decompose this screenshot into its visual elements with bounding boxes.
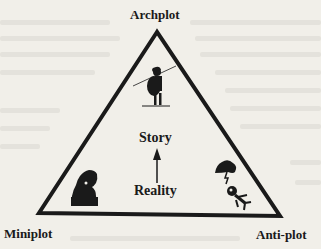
arrow-up-icon <box>153 148 161 183</box>
miniplot-label: Miniplot <box>4 227 52 240</box>
warrior-icon <box>133 66 176 106</box>
reality-label: Reality <box>134 184 177 198</box>
thinker-icon <box>71 170 98 206</box>
archplot-label: Archplot <box>130 8 180 21</box>
antiplot-label: Anti-plot <box>256 228 307 241</box>
story-label: Story <box>139 131 172 145</box>
triangle-graphic <box>0 0 321 249</box>
story-triangle-diagram: Archplot Miniplot Anti-plot Story Realit… <box>0 0 321 249</box>
